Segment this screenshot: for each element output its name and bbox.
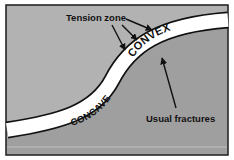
- usual-fractures-label: Usual fractures: [146, 113, 215, 124]
- bent-layer-diagram: CONCAVE CONVEX Tension zone Usual fractu…: [0, 0, 234, 160]
- tension-zone-label: Tension zone: [66, 12, 126, 23]
